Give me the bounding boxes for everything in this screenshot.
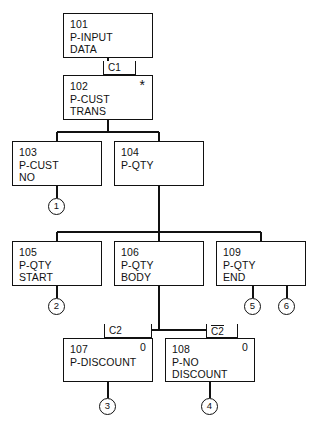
offpage-connector-5[interactable]: 5 — [244, 298, 261, 315]
condition-text: C1 — [108, 61, 121, 74]
box-label: P-INPUT DATA — [70, 31, 152, 56]
box-id: 104 — [121, 146, 203, 159]
box-label: P-CUST NO — [19, 159, 101, 184]
process-box-106[interactable]: 106 P-QTY BODY — [114, 241, 204, 286]
box-label: P-DISCOUNT — [70, 356, 152, 369]
condition-text: C2 — [109, 324, 122, 337]
process-box-107[interactable]: 107 P-DISCOUNT 0 — [63, 338, 153, 382]
box-label: P-QTY — [121, 159, 203, 172]
iteration-marker-icon: * — [139, 81, 145, 89]
condition-label-not-c2: C2 — [206, 324, 238, 338]
process-box-101[interactable]: 101 P-INPUT DATA — [63, 13, 153, 58]
process-box-104[interactable]: 104 P-QTY — [114, 141, 204, 186]
process-box-102[interactable]: 102 P-CUST TRANS * — [63, 75, 153, 120]
box-id: 105 — [19, 246, 101, 259]
box-id: 101 — [70, 18, 152, 31]
condition-text-negated: C2 — [211, 325, 224, 338]
box-label: P-QTY BODY — [121, 259, 203, 284]
connector-lines — [0, 0, 318, 431]
process-box-109[interactable]: 109 P-QTY END — [216, 241, 306, 286]
condition-label-c1: C1 — [103, 61, 136, 75]
process-box-108[interactable]: 108 P-NO DISCOUNT 0 — [165, 338, 255, 382]
offpage-connector-2[interactable]: 2 — [48, 298, 65, 315]
box-label: P-NO DISCOUNT — [172, 356, 254, 381]
box-id: 103 — [19, 146, 101, 159]
selection-marker-icon: 0 — [242, 342, 248, 353]
box-label: P-CUST TRANS — [70, 93, 152, 118]
offpage-connector-4[interactable]: 4 — [201, 398, 218, 415]
offpage-connector-6[interactable]: 6 — [278, 298, 295, 315]
process-box-103[interactable]: 103 P-CUST NO — [12, 141, 102, 186]
box-label: P-QTY START — [19, 259, 101, 284]
program-structure-diagram: 101 P-INPUT DATA 102 P-CUST TRANS * 103 … — [0, 0, 318, 431]
box-label: P-QTY END — [223, 259, 305, 284]
condition-label-c2: C2 — [104, 324, 152, 338]
offpage-connector-3[interactable]: 3 — [99, 398, 116, 415]
box-id: 106 — [121, 246, 203, 259]
selection-marker-icon: 0 — [140, 342, 146, 353]
offpage-connector-1[interactable]: 1 — [48, 198, 65, 215]
process-box-105[interactable]: 105 P-QTY START — [12, 241, 102, 286]
box-id: 109 — [223, 246, 305, 259]
